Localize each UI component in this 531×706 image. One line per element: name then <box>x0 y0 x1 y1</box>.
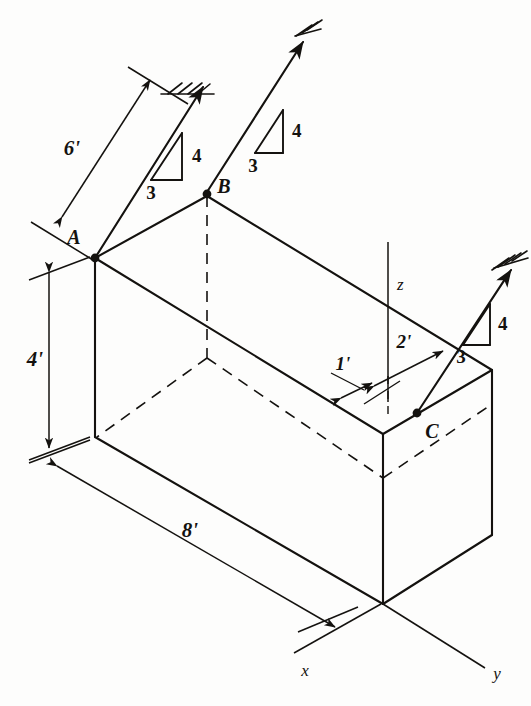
slope-b-rise-label: 4 <box>292 120 302 141</box>
support-c-icon <box>492 251 528 270</box>
dim-1-ext <box>331 373 364 390</box>
joint-dot-a <box>91 254 100 263</box>
edge-A-B <box>95 196 207 258</box>
dim-8-arrow <box>57 466 335 627</box>
dim-1-label: 1' <box>336 353 351 374</box>
dim-4-ext-bottom <box>29 437 90 460</box>
dimension-8ft: 8' <box>29 440 358 632</box>
axis-y-label: y <box>491 664 501 683</box>
axis-z-label: z <box>396 275 404 294</box>
cable-c-line <box>417 270 511 413</box>
axis-y-line <box>383 604 485 668</box>
dim-6-ext-bottom <box>31 222 93 260</box>
support-b-icon <box>295 20 322 36</box>
dim-8-ext-left <box>29 440 90 463</box>
joint-dot-b <box>203 190 212 199</box>
axis-y-group: y <box>383 604 501 683</box>
dim-6-label: 6' <box>64 136 81 160</box>
point-label-b: B <box>216 175 230 197</box>
dimension-6ft: 6' <box>31 67 188 260</box>
slope-c-rise-label: 4 <box>498 313 508 334</box>
dim-8-label: 8' <box>182 518 199 542</box>
slope-triangle-cable-b <box>255 110 283 153</box>
slope-c-run-label: 3 <box>456 346 466 367</box>
cable-a-line <box>95 87 203 258</box>
figure-canvas: 3 4 3 4 <box>0 0 531 706</box>
box-visible-edges <box>95 196 492 604</box>
cable-b-group: 3 4 <box>207 20 322 192</box>
slope-a-run-label: 3 <box>146 182 156 203</box>
slope-triangle-cable-a <box>151 133 182 180</box>
dim-2-arrow <box>374 351 443 386</box>
edge-B-topright <box>207 196 492 370</box>
dimension-4ft: 4' <box>26 257 90 460</box>
cable-a-group: 3 4 <box>95 83 214 258</box>
hidden-edge-bottom-left <box>97 358 207 437</box>
dim-2-label: 2' <box>396 331 412 352</box>
edge-bottom-front-right <box>383 535 492 604</box>
slope-a-rise-label: 4 <box>192 145 202 166</box>
cable-c-group: 3 4 <box>417 251 528 413</box>
point-label-c: C <box>425 420 439 442</box>
slope-b-run-label: 3 <box>248 155 258 176</box>
dim-4-label: 4' <box>26 347 44 371</box>
statics-diagram: 3 4 3 4 <box>0 0 531 706</box>
joint-dot-c <box>413 409 422 418</box>
axis-x-label: x <box>300 661 309 680</box>
slope-triangle-cable-c <box>463 304 490 345</box>
dimension-1ft-offset: 1' <box>331 353 372 398</box>
edge-bottom-front-left <box>95 437 383 604</box>
dim-4-ext-top <box>29 257 90 280</box>
dim-1-arrow <box>341 383 372 398</box>
